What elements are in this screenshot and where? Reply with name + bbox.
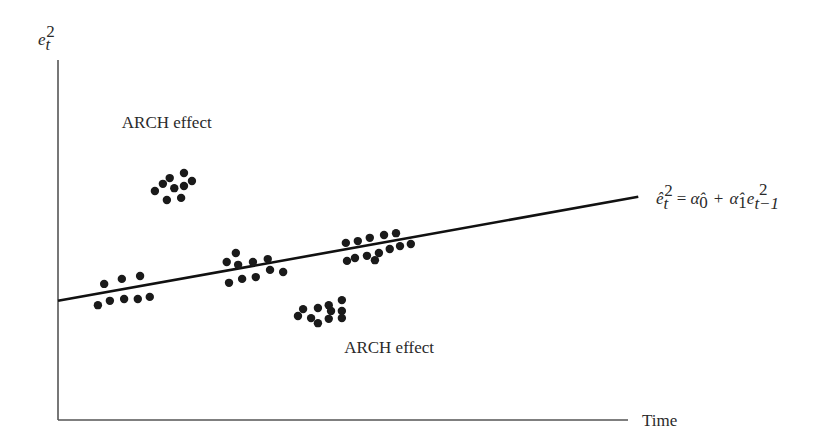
eq-lhs-sup: 2 [664,181,673,200]
data-point [327,307,335,315]
data-point [375,249,383,257]
data-point [371,256,379,264]
regression-line [58,197,638,301]
series-cluster-2 [223,249,288,287]
data-point [188,177,196,185]
data-point [170,184,178,192]
data-point [380,231,388,239]
y-axis-label-superscript: 2 [46,22,55,41]
eq-equals: = [677,189,687,208]
data-point [159,180,167,188]
data-point [343,257,351,265]
data-point [307,314,315,322]
data-point [366,234,374,242]
data-point [354,237,362,245]
data-point [342,239,350,247]
data-point [151,187,159,195]
series-cluster-arch-low [294,296,346,327]
data-point [120,295,128,303]
data-point [146,293,154,301]
data-point [106,297,114,305]
data-point [232,249,240,257]
data-point [134,295,142,303]
scatter-points [94,169,415,328]
data-point [314,304,322,312]
data-point [279,268,287,276]
data-point [249,258,257,266]
data-point [396,242,404,250]
data-point [338,296,346,304]
series-cluster-arch-high [151,169,196,204]
data-point [136,272,144,280]
data-point [338,314,346,322]
data-point [266,266,274,274]
data-point [225,279,233,287]
data-point [238,275,246,283]
data-point [234,261,242,269]
annotation-arch-effect-lower: ARCH effect [344,338,434,357]
regression-equation: êt2=α̂0+α̂1et−12 [656,180,779,213]
eq-alpha0-sub: 0 [699,193,708,212]
data-point [338,307,346,315]
eq-e-sup: 2 [759,180,768,199]
data-point [180,169,188,177]
arch-effect-chart: et2 Time êt2=α̂0+α̂1et−12 ARCH effect AR… [0,0,823,445]
data-point [264,255,272,263]
data-point [299,305,307,313]
data-point [163,196,171,204]
data-point [314,319,322,327]
data-point [407,240,415,248]
data-point [386,245,394,253]
data-point [294,312,302,320]
data-point [325,315,333,323]
y-axis-label: et2 [38,22,55,54]
annotation-arch-effect-upper: ARCH effect [122,113,212,132]
data-point [223,258,231,266]
eq-alpha1-sub: 1 [738,193,747,212]
series-cluster-1 [94,272,154,310]
data-point [351,254,359,262]
data-point [94,301,102,309]
x-axis-label: Time [642,411,677,430]
data-point [177,194,185,202]
data-point [166,174,174,182]
data-point [118,275,126,283]
eq-plus: + [714,189,724,208]
data-point [180,182,188,190]
data-point [100,280,108,288]
data-point [252,273,260,281]
data-point [392,229,400,237]
data-point [363,252,371,260]
